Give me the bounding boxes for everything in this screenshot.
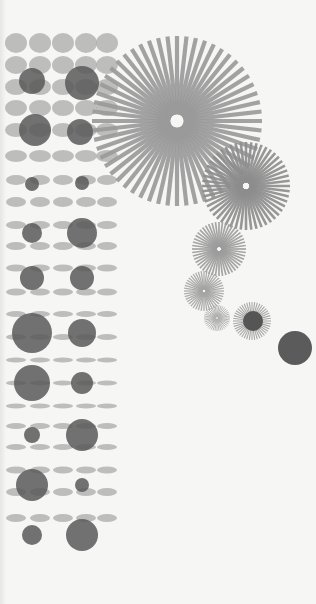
grid-dot [30, 358, 50, 363]
starburst [204, 305, 230, 331]
big-dot [70, 266, 94, 290]
grid-dot [30, 404, 50, 409]
big-dot [67, 119, 93, 145]
accent-dot [278, 331, 312, 365]
big-dot [71, 372, 93, 394]
grid-dot [6, 221, 26, 229]
grid-dot [53, 381, 73, 386]
grid-dot [97, 404, 117, 409]
grid-dot [97, 514, 117, 522]
big-dot [14, 365, 50, 401]
grid-dot [6, 423, 26, 429]
grid-dot [97, 444, 117, 450]
grid-dot [6, 404, 26, 409]
grid-dot [30, 242, 50, 250]
grid-dot [97, 358, 117, 363]
grid-dot [97, 467, 117, 474]
grid-dot [29, 33, 51, 53]
grid-dot [6, 242, 26, 250]
grid-dot [30, 514, 50, 522]
grid-dot [6, 514, 26, 522]
grid-dot [53, 467, 73, 474]
big-dot [25, 177, 39, 191]
grid-dot [53, 488, 73, 496]
big-dot [66, 419, 98, 451]
grid-dot [75, 150, 97, 162]
grid-dot [97, 423, 117, 429]
grid-dot [97, 265, 117, 272]
grid-dot [30, 444, 50, 450]
grid-dot [97, 334, 117, 340]
grid-dot [6, 358, 26, 363]
grid-dot [30, 197, 50, 207]
big-dot [22, 223, 42, 243]
grid-dot [29, 100, 51, 116]
grid-dot [96, 33, 118, 53]
grid-dot [53, 265, 73, 272]
starburst [184, 271, 224, 311]
grid-dot [52, 33, 74, 53]
grid-dot [53, 514, 73, 522]
grid-dot [52, 100, 74, 116]
big-dot [12, 313, 52, 353]
grid-dot [53, 311, 73, 317]
grid-dot [76, 311, 96, 317]
big-dot [19, 114, 51, 146]
big-dot [75, 478, 89, 492]
big-dot [67, 218, 97, 248]
big-dot [20, 266, 44, 290]
accent-dot [243, 311, 263, 331]
grid-dot [76, 404, 96, 409]
grid-dot [97, 289, 117, 296]
grid-dot [29, 150, 51, 162]
big-dot [68, 319, 96, 347]
grid-dot [53, 197, 73, 207]
accent-dots-layer [243, 311, 312, 365]
grid-dot [97, 488, 117, 496]
grid-dot [5, 33, 27, 53]
grid-dot [53, 289, 73, 296]
grid-dot [97, 221, 117, 229]
grid-dot [97, 381, 117, 386]
grid-dot [97, 242, 117, 250]
grid-dot [76, 197, 96, 207]
grid-dot [76, 467, 96, 474]
grid-dot [6, 444, 26, 450]
big-dot [66, 519, 98, 551]
grid-dot [97, 197, 117, 207]
grid-dot [76, 358, 96, 363]
starburst [192, 222, 246, 276]
grid-dot [75, 33, 97, 53]
grid-dot [97, 311, 117, 317]
big-dot [19, 68, 45, 94]
big-dots-layer [12, 66, 99, 551]
big-dot [65, 66, 99, 100]
big-dot [22, 525, 42, 545]
grid-dot [5, 100, 27, 116]
grid-dot [6, 197, 26, 207]
grid-dot [52, 150, 74, 162]
big-dot [75, 176, 89, 190]
abstract-artwork [0, 0, 316, 604]
starburst [202, 142, 290, 230]
grid-dot [97, 175, 117, 185]
grid-dot [6, 175, 26, 185]
grid-dot [53, 404, 73, 409]
big-dot [24, 427, 40, 443]
grid-dot [53, 358, 73, 363]
big-dot [16, 469, 48, 501]
grid-dot [5, 150, 27, 162]
grid-dot [6, 289, 26, 296]
grid-dot [53, 175, 73, 185]
grid-dot [53, 242, 73, 250]
starburst-layer [92, 36, 290, 340]
